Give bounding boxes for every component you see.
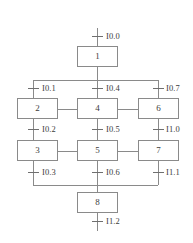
link-step-3-to-step-5: [58, 151, 77, 152]
transition-bar-i07: [153, 88, 164, 89]
link-step-8-to-exit: [97, 213, 98, 231]
transition-label-i05: I0.5: [106, 125, 120, 134]
transition-label-i12: I1.2: [106, 217, 120, 226]
link-step-5-to-convergence: [97, 161, 98, 185]
step-box-1[interactable]: 1: [77, 46, 118, 67]
transition-bar-i06: [92, 172, 103, 173]
step-box-3[interactable]: 3: [17, 140, 58, 161]
sfc-diagram: I0.0 1 I0.1 I0.4 I0.7 2 4 6 I0.2 I0.5 I1…: [0, 0, 193, 243]
step-label-2: 2: [35, 104, 40, 113]
transition-label-i02: I0.2: [42, 125, 56, 134]
link-rail-to-step-6: [158, 80, 159, 98]
transition-label-i10: I1.0: [166, 125, 180, 134]
step-box-4[interactable]: 4: [77, 98, 118, 119]
transition-bar-i11: [153, 172, 164, 173]
transition-bar-i04: [92, 88, 103, 89]
transition-label-i06: I0.6: [106, 168, 120, 177]
step-label-4: 4: [95, 104, 100, 113]
step-box-7[interactable]: 7: [138, 140, 179, 161]
step-label-1: 1: [95, 52, 100, 61]
link-step-7-to-convergence: [158, 161, 159, 185]
step-box-2[interactable]: 2: [17, 98, 58, 119]
transition-bar-i05: [92, 129, 103, 130]
step-label-7: 7: [156, 146, 161, 155]
convergence-rail-bottom: [33, 185, 158, 186]
step-box-8[interactable]: 8: [77, 192, 118, 213]
step-box-5[interactable]: 5: [77, 140, 118, 161]
transition-label-i00: I0.0: [106, 32, 120, 41]
transition-label-i07: I0.7: [166, 84, 180, 93]
link-step-2-to-step-4: [58, 109, 77, 110]
step-label-5: 5: [95, 146, 100, 155]
transition-bar-i02: [28, 129, 39, 130]
link-step-1-to-divergence: [97, 67, 98, 81]
link-entry-to-step-1: [97, 28, 98, 46]
transition-bar-i03: [28, 172, 39, 173]
link-step-5-to-step-7: [118, 151, 138, 152]
transition-bar-i00: [92, 36, 103, 37]
link-step-4-to-step-6: [118, 109, 138, 110]
transition-bar-i12: [92, 221, 103, 222]
step-box-6[interactable]: 6: [138, 98, 179, 119]
step-label-3: 3: [35, 146, 40, 155]
divergence-rail-top: [33, 80, 158, 81]
transition-label-i01: I0.1: [42, 84, 56, 93]
link-rail-to-step-2: [33, 80, 34, 98]
transition-bar-i10: [153, 129, 164, 130]
transition-label-i04: I0.4: [106, 84, 120, 93]
transition-label-i11: I1.1: [166, 168, 180, 177]
transition-label-i03: I0.3: [42, 168, 56, 177]
step-label-6: 6: [156, 104, 161, 113]
transition-bar-i01: [28, 88, 39, 89]
link-step-3-to-convergence: [33, 161, 34, 185]
step-label-8: 8: [95, 198, 100, 207]
link-rail-to-step-4: [97, 80, 98, 98]
link-convergence-to-step-8: [97, 185, 98, 192]
